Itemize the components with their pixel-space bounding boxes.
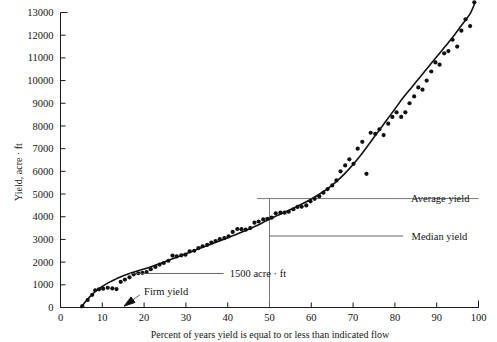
data-point (183, 253, 187, 257)
y-tick-label: 13000 (27, 7, 53, 18)
data-point (416, 85, 420, 89)
data-point (218, 237, 222, 241)
data-point (446, 49, 450, 53)
data-point (265, 217, 269, 221)
data-point (304, 203, 308, 207)
y-tick-label: 1000 (33, 279, 54, 290)
data-point (274, 211, 278, 215)
data-point (351, 162, 355, 166)
y-tick-label: 8000 (33, 121, 54, 132)
data-point (196, 246, 200, 250)
x-tick-label: 70 (348, 312, 359, 323)
y-tick-label: 12000 (27, 30, 53, 41)
data-point (308, 199, 312, 203)
data-point (356, 147, 360, 151)
yield-data-points (80, 0, 476, 308)
data-point (157, 263, 161, 267)
data-point (257, 219, 261, 223)
x-tick-label: 60 (306, 312, 317, 323)
data-point (386, 122, 390, 126)
data-point (179, 253, 183, 257)
data-point (295, 205, 299, 209)
y-tick-label: 0 (48, 302, 53, 313)
annotation-1500-acre-ft: 1500 acre · ft (129, 268, 286, 279)
data-point (235, 227, 239, 231)
data-point (209, 241, 213, 245)
data-point (170, 253, 174, 257)
data-point (140, 271, 144, 275)
data-point (455, 44, 459, 48)
y-tick-label: 7000 (33, 143, 54, 154)
data-point (278, 211, 282, 215)
y-axis-ticks (61, 13, 66, 308)
x-tick-label: 30 (181, 312, 192, 323)
data-point (252, 221, 256, 225)
y-tick-label: 10000 (27, 75, 53, 86)
data-point (239, 227, 243, 231)
data-point (420, 88, 424, 92)
data-point (93, 288, 97, 292)
data-point (205, 243, 209, 247)
y-tick-label: 9000 (33, 98, 54, 109)
x-axis-tick-labels: 0102030405060708090100 (58, 312, 487, 323)
data-point (86, 298, 90, 302)
data-point (90, 293, 94, 297)
data-point (97, 287, 101, 291)
data-point (317, 194, 321, 198)
data-point (119, 280, 123, 284)
y-tick-label: 6000 (33, 166, 54, 177)
annotation-layer: Average yield Median yield 1500 acre · f… (124, 193, 478, 306)
chart-canvas: 0102030405060708090100 01000200030004000… (0, 0, 497, 342)
data-point (106, 286, 110, 290)
x-tick-label: 10 (97, 312, 108, 323)
x-tick-label: 50 (264, 312, 275, 323)
data-point (300, 205, 304, 209)
data-point (433, 60, 437, 64)
data-point (80, 304, 84, 308)
annotation-firm-yield: Firm yield (124, 286, 189, 306)
data-point (261, 217, 265, 221)
data-point (127, 275, 131, 279)
data-point (162, 261, 166, 265)
firm-yield-label: Firm yield (144, 286, 189, 297)
data-point (360, 140, 364, 144)
data-point (442, 51, 446, 55)
data-point (282, 211, 286, 215)
data-point (123, 277, 127, 281)
y-tick-label: 11000 (28, 52, 54, 63)
x-tick-label: 20 (139, 312, 150, 323)
data-point (244, 228, 248, 232)
data-point (326, 187, 330, 191)
data-point (231, 230, 235, 234)
data-point (394, 110, 398, 114)
data-point (114, 287, 118, 291)
data-point (425, 78, 429, 82)
data-point (377, 127, 381, 131)
data-point (248, 226, 252, 230)
data-point (369, 131, 373, 135)
data-point (132, 272, 136, 276)
data-point (343, 163, 347, 167)
y-tick-label: 2000 (33, 257, 54, 268)
yield-duration-chart-figure: 0102030405060708090100 01000200030004000… (0, 0, 497, 342)
data-point (334, 178, 338, 182)
data-point (291, 207, 295, 211)
annotation-guide-lines (257, 199, 479, 308)
data-point (188, 249, 192, 253)
data-point (213, 239, 217, 243)
data-point (403, 110, 407, 114)
y-tick-label: 5000 (33, 189, 54, 200)
data-point (166, 259, 170, 263)
median-yield-label: Median yield (412, 231, 468, 242)
data-point (468, 24, 472, 28)
data-point (269, 216, 273, 220)
data-point (175, 254, 179, 258)
data-point (438, 63, 442, 67)
data-point (338, 169, 342, 173)
data-point (110, 286, 114, 290)
data-point (364, 172, 368, 176)
data-point (153, 265, 157, 269)
average-yield-label: Average yield (411, 193, 470, 204)
data-point (347, 157, 351, 161)
data-point (472, 0, 476, 4)
